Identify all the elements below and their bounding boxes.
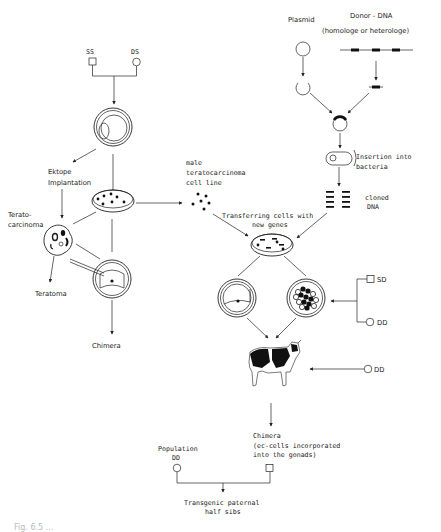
label-terato: Terato- <box>7 211 32 219</box>
label-cell-line: cell line <box>186 179 222 187</box>
label-new-genes: new genes <box>252 221 288 229</box>
female-symbol-ds <box>133 58 141 66</box>
label-ds: DS <box>131 48 139 56</box>
label-population: Population <box>158 445 198 453</box>
label-ektope: Ektope <box>48 168 72 176</box>
blastocyst-embryo-icon <box>218 279 256 317</box>
aggregated-embryo-icon <box>287 279 325 317</box>
cloned-dna-icon <box>326 191 350 208</box>
dna-fragment-icon <box>369 86 383 89</box>
label-teratoma: Teratoma <box>34 290 67 298</box>
female-symbol-dd-recipient <box>364 365 372 373</box>
label-ec-cells: (ec-cells incorporated <box>253 442 340 450</box>
chimera-blastocyst-icon <box>93 260 131 298</box>
label-chimera-left: Chimera <box>92 342 121 350</box>
label-homologe: (homologe or heterologe) <box>322 27 409 35</box>
cow-icon <box>249 340 301 386</box>
label-dd-donor: DD <box>377 319 387 327</box>
label-dd-recipient: DD <box>374 366 384 374</box>
label-plasmid: Plasmid <box>288 16 315 24</box>
blastocyst-icon <box>94 108 132 146</box>
label-teratocarcinoma: teratocarcinoma <box>186 169 246 177</box>
cell-line-dots-icon <box>192 193 211 211</box>
label-male: male <box>186 159 202 167</box>
male-symbol-sd <box>367 276 374 283</box>
plasmid-icon <box>296 42 310 56</box>
label-sd: SD <box>377 276 387 284</box>
label-dna: DNA <box>367 203 379 211</box>
label-cloned: cloned <box>365 194 389 202</box>
bacteria-icon <box>326 152 352 165</box>
label-implantation: Implantation <box>48 179 91 187</box>
diagram-svg: SS DS Ektope Implantation Terato- carcin… <box>0 0 441 532</box>
female-symbol-dd-donor <box>366 318 374 326</box>
male-symbol-chimera <box>266 465 273 472</box>
label-carcinoma: carcinoma <box>8 221 43 229</box>
male-symbol-ss <box>89 58 96 65</box>
label-insertion: Insertion into <box>356 153 412 161</box>
label-bacteria: bacteria <box>356 163 388 171</box>
left-parents: SS DS <box>86 48 140 104</box>
label-transgenic: Transgenic paternal <box>184 499 259 507</box>
female-symbol-population <box>173 464 181 472</box>
label-transferring: Transferring cells with <box>222 212 313 220</box>
label-population-dd: DD <box>172 454 180 462</box>
label-half-sibs: half sibs <box>205 508 241 516</box>
label-chimera-bottom: Chimera <box>253 432 281 440</box>
label-gonads: into the gonads) <box>253 451 317 459</box>
teratocarcinoma-icon <box>44 225 72 255</box>
transfer-dish-icon <box>251 234 293 256</box>
label-donor-dna: Donor - DNA <box>350 12 393 20</box>
figure-caption: Fig. 6.5 ... <box>14 523 53 532</box>
petri-dish-icon <box>92 190 134 212</box>
donor-dna-strand-icon <box>340 49 413 52</box>
diagram-canvas: SS DS Ektope Implantation Terato- carcin… <box>0 0 441 532</box>
cut-plasmid-icon <box>296 83 310 95</box>
recombinant-plasmid-icon <box>333 117 347 131</box>
label-ss: SS <box>86 48 94 56</box>
